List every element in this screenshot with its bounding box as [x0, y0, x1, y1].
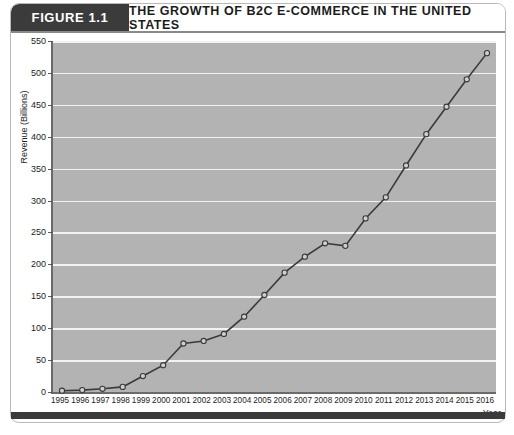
header-divider — [11, 31, 505, 33]
x-axis-tick-label: 2016 — [476, 396, 494, 405]
data-point-marker — [140, 373, 145, 378]
data-point-marker — [80, 387, 85, 392]
x-axis-tick-label: 1997 — [91, 396, 109, 405]
figure-title: THE GROWTH OF B2C E-COMMERCE IN THE UNIT… — [129, 4, 505, 31]
data-point-marker — [403, 163, 408, 168]
data-point-marker — [161, 363, 166, 368]
x-axis-tick-label: 1996 — [71, 396, 89, 405]
x-axis-tick-label: 2004 — [233, 396, 251, 405]
y-axis-tick-label: 0 — [41, 387, 46, 397]
data-point-marker — [242, 314, 247, 319]
x-axis-tick-labels: 1995199619971998199920002001200220032004… — [51, 396, 494, 410]
x-axis-tick-label: 2005 — [253, 396, 271, 405]
data-point-marker — [444, 104, 449, 109]
y-axis-tick-label: 50 — [36, 355, 46, 365]
footer-bar — [11, 412, 505, 419]
y-axis-tick-label: 100 — [31, 323, 46, 333]
data-point-marker — [343, 243, 348, 248]
figure-number-label: FIGURE 1.1 — [11, 4, 129, 31]
x-axis-tick-label: 1995 — [51, 396, 69, 405]
data-point-marker — [100, 386, 105, 391]
revenue-line-series — [53, 41, 496, 392]
x-axis-tick-label: 2006 — [274, 396, 292, 405]
data-point-marker — [484, 51, 489, 56]
figure-header: FIGURE 1.1 THE GROWTH OF B2C E-COMMERCE … — [11, 4, 505, 31]
data-point-marker — [302, 254, 307, 259]
y-axis-tick-label: 400 — [31, 132, 46, 142]
data-point-marker — [282, 270, 287, 275]
y-axis-tick-label: 450 — [31, 100, 46, 110]
x-axis-tick-label: 2003 — [213, 396, 231, 405]
data-point-marker — [221, 331, 226, 336]
x-axis-tick-label: 2011 — [375, 396, 393, 405]
data-point-marker — [181, 341, 186, 346]
data-point-marker — [201, 338, 206, 343]
series-line — [62, 53, 487, 391]
y-axis-tick-label: 300 — [31, 196, 46, 206]
x-axis-tick-label: 2012 — [395, 396, 413, 405]
x-axis-tick-label: 2010 — [354, 396, 372, 405]
x-axis-tick-label: 1998 — [112, 396, 130, 405]
y-axis-tick-label: 350 — [31, 164, 46, 174]
x-axis-tick-label: 1999 — [132, 396, 150, 405]
x-axis-tick-label: 2008 — [314, 396, 332, 405]
data-point-marker — [120, 384, 125, 389]
x-axis-tick-label: 2001 — [172, 396, 190, 405]
data-point-marker — [363, 216, 368, 221]
y-axis-tick-label: 550 — [31, 36, 46, 46]
data-point-marker — [59, 388, 64, 393]
x-axis-tick-label: 2007 — [294, 396, 312, 405]
plot-area — [51, 41, 496, 394]
y-axis-tick-label: 150 — [31, 291, 46, 301]
x-axis-tick-label: 2009 — [334, 396, 352, 405]
y-axis-tick — [48, 392, 53, 393]
data-point-marker — [424, 132, 429, 137]
x-axis-tick-label: 2013 — [415, 396, 433, 405]
x-axis-tick-label: 2002 — [193, 396, 211, 405]
figure-container: FIGURE 1.1 THE GROWTH OF B2C E-COMMERCE … — [0, 0, 514, 435]
x-axis-tick-label: 2000 — [152, 396, 170, 405]
y-axis-tick-label: 250 — [31, 227, 46, 237]
y-axis-tick-label: 500 — [31, 68, 46, 78]
data-point-marker — [323, 241, 328, 246]
y-axis-tick-label: 200 — [31, 259, 46, 269]
data-point-marker — [383, 195, 388, 200]
x-axis-tick-label: 2015 — [456, 396, 474, 405]
data-point-marker — [464, 77, 469, 82]
x-axis-tick-label: 2014 — [435, 396, 453, 405]
y-axis-tick-labels: 050100150200250300350400450500550 — [20, 41, 46, 392]
data-point-marker — [262, 292, 267, 297]
